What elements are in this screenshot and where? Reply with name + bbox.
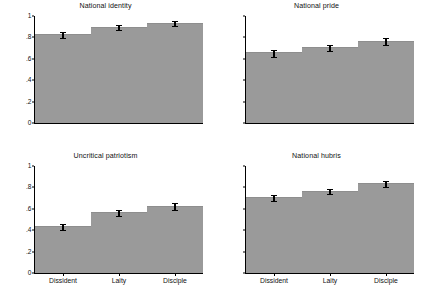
error-bar <box>174 203 175 210</box>
y-tick-mark <box>243 273 246 274</box>
bar-group[interactable]: Dissident <box>246 166 302 273</box>
y-tick-mark <box>243 58 246 59</box>
y-tick-mark <box>32 251 35 252</box>
bar-series <box>35 16 203 123</box>
y-tick-mark <box>243 166 246 167</box>
error-bar-cap-upper <box>172 21 178 22</box>
bar[interactable] <box>147 206 203 273</box>
x-tick-mark <box>386 273 387 276</box>
bar-group[interactable]: Laity <box>302 166 358 273</box>
bar-series: DissidentLaityDisciple <box>246 166 414 273</box>
bar[interactable] <box>358 41 414 123</box>
x-tick-mark <box>330 273 331 276</box>
y-tick-label: .4 <box>18 227 32 234</box>
y-tick-label: 0 <box>18 120 32 127</box>
x-tick-mark <box>63 273 64 276</box>
error-bar-cap-lower <box>60 230 66 231</box>
bar[interactable] <box>302 47 358 123</box>
x-tick-mark <box>175 273 176 276</box>
y-tick-mark <box>243 123 246 124</box>
plot-area: DissidentLaityDisciple <box>245 166 414 274</box>
y-tick-label: .2 <box>18 248 32 255</box>
error-bar-cap-upper <box>271 50 277 51</box>
y-tick-label: .4 <box>18 77 32 84</box>
error-bar-cap-lower <box>116 30 122 31</box>
bar-group[interactable] <box>35 16 91 123</box>
error-bar-cap-lower <box>271 201 277 202</box>
panel-title: National identity <box>0 2 211 11</box>
bar-group[interactable] <box>147 16 203 123</box>
figure-canvas: National identity0.2.4.6.81National prid… <box>0 0 422 300</box>
bar-group[interactable] <box>302 16 358 123</box>
error-bar-cap-lower <box>172 210 178 211</box>
bar-group[interactable] <box>91 16 147 123</box>
bar[interactable] <box>302 191 358 273</box>
panel-top-right: National pride <box>211 2 422 150</box>
plot-area: 0.2.4.6.81 <box>34 16 203 124</box>
y-tick-mark <box>243 251 246 252</box>
y-tick-mark <box>32 16 35 17</box>
bar-group[interactable]: Laity <box>91 166 147 273</box>
panel-bottom-right: National hubrisDissidentLaityDisciple <box>211 152 422 300</box>
y-tick-label: .8 <box>18 34 32 41</box>
bar-group[interactable]: Disciple <box>147 166 203 273</box>
error-bar-cap-lower <box>327 194 333 195</box>
panel-top-left: National identity0.2.4.6.81 <box>0 2 211 150</box>
y-tick-mark <box>32 58 35 59</box>
y-tick-mark <box>32 166 35 167</box>
y-tick-label: 0 <box>18 270 32 277</box>
error-bar-cap-lower <box>271 57 277 58</box>
x-tick-label: Disciple <box>358 277 414 284</box>
bar-group[interactable]: Dissident <box>35 166 91 273</box>
error-bar-cap-lower <box>383 187 389 188</box>
bar[interactable] <box>246 52 302 123</box>
x-tick-label: Dissident <box>246 277 302 284</box>
y-tick-label: .6 <box>18 56 32 63</box>
y-tick-mark <box>243 187 246 188</box>
x-tick-mark <box>274 273 275 276</box>
bar[interactable] <box>91 212 147 273</box>
plot-area: 0.2.4.6.81DissidentLaityDisciple <box>34 166 203 274</box>
error-bar-cap-upper <box>60 224 66 225</box>
panel-title: National hubris <box>211 152 422 161</box>
y-tick-mark <box>32 80 35 81</box>
y-tick-label: .2 <box>18 98 32 105</box>
error-bar-cap-lower <box>172 26 178 27</box>
bar-group[interactable] <box>246 16 302 123</box>
x-axis-line <box>34 123 203 124</box>
y-tick-mark <box>32 273 35 274</box>
x-tick-label: Laity <box>91 277 147 284</box>
bar[interactable] <box>147 23 203 124</box>
bar[interactable] <box>35 34 91 123</box>
y-tick-label: .6 <box>18 206 32 213</box>
y-tick-label: 1 <box>18 13 32 20</box>
y-tick-mark <box>243 101 246 102</box>
bar[interactable] <box>35 226 91 273</box>
bar-group[interactable]: Disciple <box>358 166 414 273</box>
x-axis-line <box>245 123 414 124</box>
error-bar-cap-upper <box>172 203 178 204</box>
error-bar-cap-upper <box>327 45 333 46</box>
y-tick-mark <box>243 16 246 17</box>
error-bar-cap-lower <box>60 38 66 39</box>
plot-area <box>245 16 414 124</box>
error-bar-cap-upper <box>327 189 333 190</box>
error-bar-cap-upper <box>383 38 389 39</box>
x-tick-label: Disciple <box>147 277 203 284</box>
error-bar-cap-upper <box>116 25 122 26</box>
error-bar-cap-lower <box>383 45 389 46</box>
y-tick-mark <box>32 37 35 38</box>
y-tick-label: 1 <box>18 163 32 170</box>
bar[interactable] <box>246 197 302 273</box>
error-bar-cap-lower <box>327 51 333 52</box>
bar[interactable] <box>358 183 414 273</box>
y-tick-label: .8 <box>18 184 32 191</box>
y-tick-mark <box>32 101 35 102</box>
panel-bottom-left: Uncritical patriotism0.2.4.6.81Dissident… <box>0 152 211 300</box>
x-tick-label: Laity <box>302 277 358 284</box>
bar-group[interactable] <box>358 16 414 123</box>
bar[interactable] <box>91 27 147 123</box>
error-bar-cap-lower <box>116 216 122 217</box>
bar-series: DissidentLaityDisciple <box>35 166 203 273</box>
y-tick-mark <box>243 37 246 38</box>
